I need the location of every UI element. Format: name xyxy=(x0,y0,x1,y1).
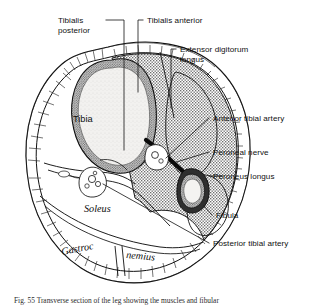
posterior-tibial-vessel-bundle xyxy=(79,167,106,197)
small-vein xyxy=(59,171,70,177)
fibula-marrow xyxy=(184,179,201,203)
label-tibialis-posterior-line1: Tibialis xyxy=(58,16,83,25)
label-fibula: Fibula xyxy=(216,211,239,220)
figure-caption: Fig. 55 Transverse section of the leg sh… xyxy=(14,296,219,305)
label-anterior-tibial-artery: Anterior tibial artery xyxy=(213,114,285,123)
label-peroneal-nerve: Peroneal nerve xyxy=(213,148,269,157)
label-tibialis-anterior: Tibialis anterior xyxy=(147,16,203,25)
label-extensor-digitorum-longus-line1: Extensor digitorum xyxy=(180,45,249,54)
label-peroneus-longus: Peroneus longus xyxy=(213,172,275,181)
tibia-label: Tibia xyxy=(73,114,93,124)
label-tibialis-posterior-line2: posterior xyxy=(58,26,90,35)
figure-caption-group: Fig. 55 Transverse section of the leg sh… xyxy=(14,296,219,305)
soleus-label: Soleus xyxy=(84,203,111,214)
leg-cross-section-svg: Tibia xyxy=(0,0,318,306)
label-extensor-digitorum-longus-line2: longus xyxy=(180,55,204,64)
anterior-tibial-vessels xyxy=(145,145,169,170)
anatomy-figure: Tibia xyxy=(0,0,318,306)
label-posterior-tibial-artery: Posterior tibial artery xyxy=(213,239,289,248)
